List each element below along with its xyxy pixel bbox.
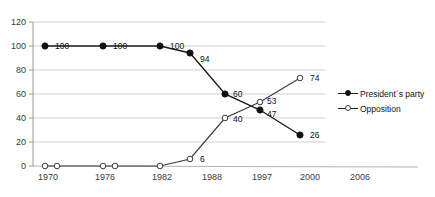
y-tick-label-60: 60 [0,90,26,99]
y-tick-label-120: 120 [0,18,26,27]
y-tick-label-80: 80 [0,66,26,75]
data-label-opposition-1997: 40 [233,115,242,124]
data-label-president-1997: 60 [233,90,242,99]
series-line-opposition [45,78,300,166]
series-markers-president [42,43,303,138]
legend-label-president: President´s party [360,89,424,99]
x-tick-label-1970: 1970 [28,172,68,182]
x-tick-label-1976: 1976 [85,172,125,182]
legend-item-opposition[interactable]: Opposition [338,101,424,116]
x-tick-label-1982: 1982 [142,172,182,182]
data-label-opposition-1988: 6 [200,155,205,164]
data-label-president-2000: 47 [267,110,276,119]
data-label-president-1970: 100 [55,42,69,51]
x-tick-label-1988: 1988 [192,172,232,182]
data-label-president-2006: 26 [310,131,319,140]
legend-marker-filled-circle-icon [338,88,358,99]
y-tick-label-100: 100 [0,42,26,51]
data-label-president-1988: 94 [200,55,209,64]
y-tick-label-40: 40 [0,114,26,123]
data-label-opposition-2006: 74 [310,74,319,83]
y-tick-label-20: 20 [0,138,26,147]
line-chart: 120 100 80 60 40 20 0 1970 1976 1982 198… [0,0,435,197]
series-line-president [45,46,300,135]
x-tick-label-2006: 2006 [340,172,380,182]
legend-marker-open-circle-icon [338,103,358,114]
series-markers-opposition [42,75,303,169]
y-tick-label-0: 0 [0,162,26,171]
chart-legend: President´s party Opposition [338,86,424,116]
legend-label-opposition: Opposition [360,104,401,114]
data-label-president-1982: 100 [170,42,184,51]
y-tick-marks [29,22,33,166]
data-label-opposition-2000: 53 [267,97,276,106]
x-tick-label-1997: 1997 [242,172,282,182]
x-tick-label-2000: 2000 [290,172,330,182]
data-label-president-1976: 100 [113,42,127,51]
legend-item-president[interactable]: President´s party [338,86,424,101]
